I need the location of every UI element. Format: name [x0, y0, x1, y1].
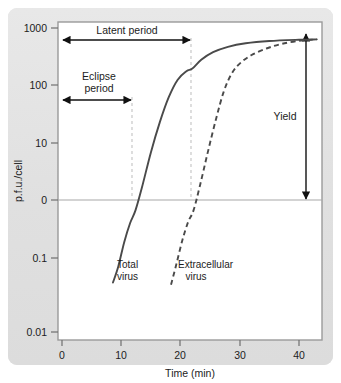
x-tick-40: 40	[293, 340, 305, 361]
y-tick-label: 100	[29, 79, 47, 91]
y-tick-label: 0.1	[32, 252, 47, 264]
y-tick-100: 100	[29, 79, 58, 91]
total-virus-label-group: Total virus	[117, 259, 138, 282]
total-virus-label-line1: Total	[117, 259, 138, 270]
eclipse-period-label-line1: Eclipse	[82, 70, 116, 82]
latent-period-label: Latent period	[96, 24, 157, 36]
x-tick-label: 10	[115, 349, 127, 361]
x-tick-label: 0	[59, 349, 65, 361]
total-virus-label-line2: virus	[117, 271, 138, 282]
y-tick-0point01: 0.01	[27, 326, 58, 338]
x-tick-10: 10	[115, 340, 127, 361]
extracellular-virus-label-line2: virus	[185, 271, 206, 282]
x-axis-title: Time (min)	[165, 367, 215, 379]
y-axis: 1000 100 10 0 0.1 0.01	[24, 22, 58, 338]
y-tick-10: 10	[35, 137, 58, 149]
virus-growth-curve-figure: 1000 100 10 0 0.1 0.01	[0, 0, 341, 383]
y-tick-label: 0	[41, 194, 47, 206]
x-tick-label: 40	[293, 349, 305, 361]
y-tick-1000: 1000	[24, 22, 58, 34]
y-tick-0: 0	[41, 194, 58, 206]
eclipse-period-label-line2: period	[84, 82, 113, 94]
x-tick-0: 0	[59, 340, 65, 361]
chart-svg: 1000 100 10 0 0.1 0.01	[0, 0, 341, 383]
x-tick-20: 20	[174, 340, 186, 361]
extracellular-virus-label-line1: Extracellular	[178, 259, 234, 270]
x-tick-30: 30	[234, 340, 246, 361]
x-tick-label: 30	[234, 349, 246, 361]
y-tick-label: 0.01	[27, 326, 48, 338]
yield-label: Yield	[274, 110, 297, 122]
x-axis: 0 10 20 30 40	[59, 340, 305, 361]
y-tick-label: 1000	[24, 22, 48, 34]
y-tick-0point1: 0.1	[32, 252, 58, 264]
x-tick-label: 20	[174, 349, 186, 361]
y-tick-label: 10	[35, 137, 47, 149]
y-axis-title: p.f.u./cell	[12, 160, 24, 202]
